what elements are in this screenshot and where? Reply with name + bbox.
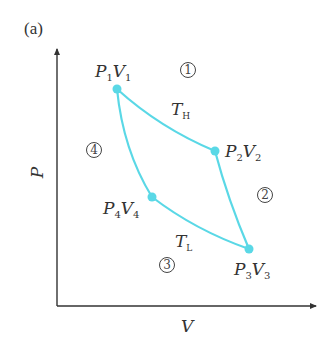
panel-label: (a) <box>24 20 43 37</box>
point-2 <box>211 147 220 156</box>
x-axis-label: V <box>181 318 193 335</box>
point-4 <box>148 193 157 202</box>
process-2-marker: 2 <box>257 187 273 203</box>
process-3-marker: 3 <box>159 257 175 273</box>
point-3 <box>245 245 254 254</box>
label-p4v4: P4V4 <box>103 200 139 220</box>
label-t-high: TH <box>171 101 190 121</box>
isotherm-high <box>117 89 215 151</box>
process-4-marker: 4 <box>86 142 102 158</box>
label-t-low: TL <box>175 233 192 253</box>
adiabat-expansion <box>215 151 249 249</box>
process-1-marker: 1 <box>180 62 196 78</box>
label-p2v2: P2V2 <box>225 143 261 163</box>
y-axis-label: P <box>29 167 46 178</box>
pv-plot <box>0 0 323 357</box>
label-p3v3: P3V3 <box>234 261 270 281</box>
carnot-cycle-diagram: (a) P V P1V1 P2V2 P3V3 P4V4 TH TL 1 2 3 … <box>0 0 323 357</box>
isotherm-low <box>152 197 249 249</box>
point-1 <box>113 85 122 94</box>
label-p1v1: P1V1 <box>95 63 131 83</box>
